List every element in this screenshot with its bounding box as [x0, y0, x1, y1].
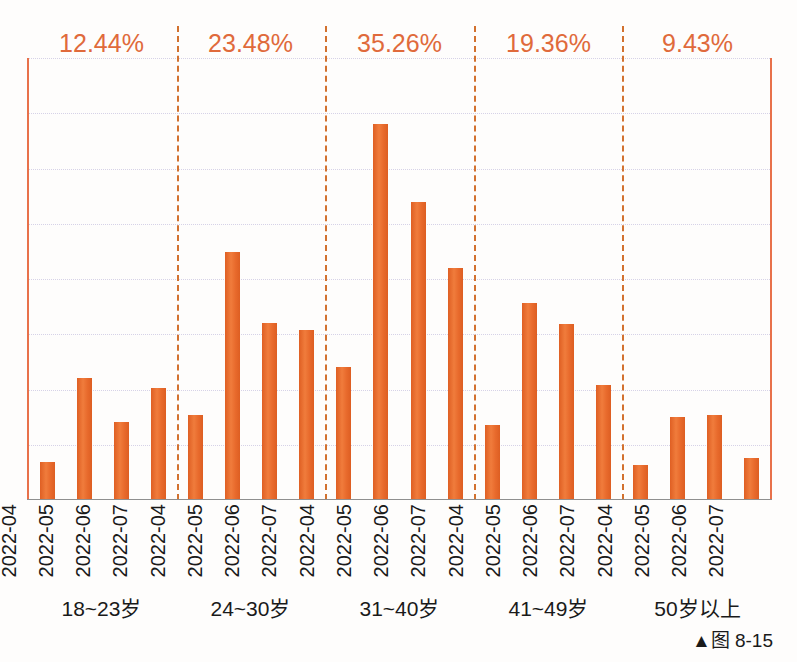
bar[interactable] [596, 385, 611, 500]
bar-slot [288, 58, 325, 500]
bar[interactable] [522, 303, 537, 500]
share-annotation-cell: 19.36% [474, 26, 623, 60]
bar[interactable] [633, 465, 648, 500]
age-band-cell: 24~30岁 [176, 592, 325, 622]
bar[interactable] [448, 268, 463, 500]
age-band-label: 18~23岁 [62, 592, 142, 622]
share-annotation-cell: 35.26% [325, 26, 474, 60]
bar-slot [474, 58, 511, 500]
age-band-label: 24~30岁 [211, 592, 291, 622]
bar[interactable] [77, 378, 92, 500]
bar-groups [29, 58, 770, 500]
share-percentage-label: 35.26% [357, 29, 442, 58]
share-percentage-label: 9.43% [662, 29, 733, 58]
x-tick-label: 2022-07 [258, 504, 281, 577]
bar-slot [177, 58, 214, 500]
x-tick-label: 2022-06 [519, 504, 542, 577]
bar[interactable] [744, 458, 759, 500]
x-tick-label: 2022-06 [72, 504, 95, 577]
bar[interactable] [336, 367, 351, 500]
tick-slot: 2022-07 [735, 502, 772, 590]
share-percentage-label: 12.44% [59, 29, 144, 58]
bar-slot [437, 58, 474, 500]
bar[interactable] [670, 417, 685, 500]
figure-caption: ▲图 8-15 [692, 625, 773, 652]
bar-slot [659, 58, 696, 500]
bar-slot [548, 58, 585, 500]
bar[interactable] [151, 388, 166, 500]
x-tick-label: 2022-05 [631, 504, 654, 577]
bar-group [29, 58, 177, 500]
bar-slot [325, 58, 362, 500]
share-percentage-label: 23.48% [208, 29, 293, 58]
tick-group: 2022-042022-052022-062022-07 [623, 502, 772, 590]
bar-group [622, 58, 770, 500]
x-tick-label: 2022-07 [556, 504, 579, 577]
age-band-cell: 41~49岁 [474, 592, 623, 622]
x-axis-baseline [27, 499, 772, 500]
bar[interactable] [262, 323, 277, 500]
share-annotation-cell: 12.44% [27, 26, 176, 60]
bar[interactable] [559, 324, 574, 500]
bar-group [177, 58, 325, 500]
x-tick-label: 2022-05 [482, 504, 505, 577]
bar-slot [733, 58, 770, 500]
x-tick-label: 2022-07 [407, 504, 430, 577]
x-tick-label: 2022-07 [705, 504, 728, 577]
age-band-cell: 31~40岁 [325, 592, 474, 622]
bar-slot [103, 58, 140, 500]
x-tick-label: 2022-04 [295, 504, 318, 577]
x-tick-label: 2022-04 [0, 504, 20, 577]
age-band-label: 50岁以上 [654, 592, 740, 622]
bar-slot [622, 58, 659, 500]
chart-figure: 12.44%23.48%35.26%19.36%9.43% 2022-04202… [0, 0, 797, 662]
bar[interactable] [40, 462, 55, 500]
x-tick-label: 2022-05 [333, 504, 356, 577]
plot-area [27, 58, 772, 500]
share-annotation-cell: 9.43% [623, 26, 772, 60]
x-tick-label: 2022-06 [221, 504, 244, 577]
bar[interactable] [188, 415, 203, 500]
bar-group [325, 58, 473, 500]
x-tick-label: 2022-04 [146, 504, 169, 577]
age-band-label: 41~49岁 [509, 592, 589, 622]
bar-group [474, 58, 622, 500]
bar-slot [66, 58, 103, 500]
bar-slot [400, 58, 437, 500]
share-percentage-label: 19.36% [506, 29, 591, 58]
bar-slot [214, 58, 251, 500]
age-band-label: 31~40岁 [360, 592, 440, 622]
x-tick-labels: 2022-042022-052022-062022-072022-042022-… [27, 502, 772, 590]
bar[interactable] [485, 425, 500, 500]
bar-slot [251, 58, 288, 500]
age-band-label-row: 18~23岁24~30岁31~40岁41~49岁50岁以上 [27, 592, 772, 622]
x-tick-label: 2022-05 [184, 504, 207, 577]
x-tick-label: 2022-06 [370, 504, 393, 577]
bar[interactable] [225, 252, 240, 500]
x-tick-label: 2022-06 [668, 504, 691, 577]
bar-slot [29, 58, 66, 500]
bar[interactable] [373, 124, 388, 500]
bar-slot [585, 58, 622, 500]
bar[interactable] [707, 415, 722, 500]
bar-slot [362, 58, 399, 500]
x-tick-label: 2022-04 [444, 504, 467, 577]
bar-slot [696, 58, 733, 500]
age-band-cell: 50岁以上 [623, 592, 772, 622]
x-tick-label: 2022-05 [35, 504, 58, 577]
x-tick-label: 2022-04 [593, 504, 616, 577]
x-tick-label: 2022-07 [109, 504, 132, 577]
bar-slot [511, 58, 548, 500]
share-annotation-row: 12.44%23.48%35.26%19.36%9.43% [27, 26, 772, 60]
bar[interactable] [114, 422, 129, 500]
bar-slot [140, 58, 177, 500]
bar[interactable] [411, 202, 426, 500]
bar[interactable] [299, 330, 314, 500]
share-annotation-cell: 23.48% [176, 26, 325, 60]
age-band-cell: 18~23岁 [27, 592, 176, 622]
